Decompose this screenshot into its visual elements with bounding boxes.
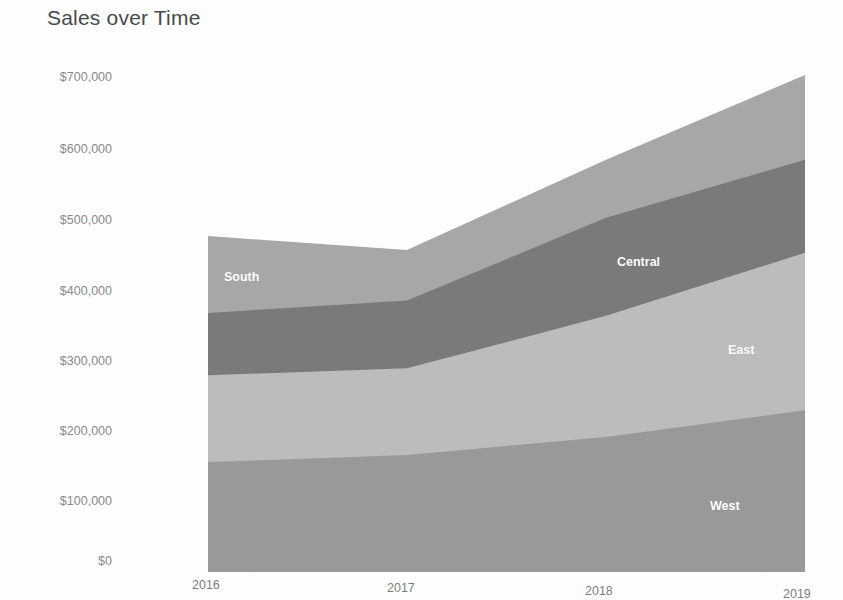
series-label-west: West bbox=[710, 499, 740, 513]
series-label-east: East bbox=[728, 343, 754, 357]
series-labels-layer: SouthCentralEastWest bbox=[0, 0, 843, 600]
series-label-central: Central bbox=[617, 255, 660, 269]
series-label-south: South bbox=[224, 270, 259, 284]
sales-over-time-chart: Sales over Time $700,000$600,000$500,000… bbox=[0, 0, 843, 600]
